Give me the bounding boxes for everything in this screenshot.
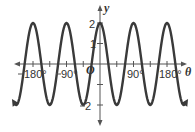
y-axis-up-arrow-icon	[98, 5, 103, 11]
y-tick-label-2: 2	[89, 18, 95, 30]
x-axis-left-arrow-icon	[14, 62, 20, 67]
x-tick-label-180: 180°	[159, 68, 182, 80]
x-axis-label: θ	[185, 65, 192, 79]
cosine-graph: y θ O 2 1 2 180° 90° 90° 180°	[0, 0, 195, 132]
y-axis-down-arrow-icon	[98, 120, 103, 126]
y-tick-label-neg2: 2	[85, 100, 91, 112]
y-tick-label-1: 1	[90, 38, 96, 50]
x-tick-label-neg90: 90°	[61, 68, 78, 80]
origin-label: O	[86, 63, 95, 77]
x-tick-label-neg180: 180°	[24, 68, 47, 80]
y-axis-label: y	[102, 1, 110, 15]
x-tick-label-90: 90°	[127, 68, 144, 80]
